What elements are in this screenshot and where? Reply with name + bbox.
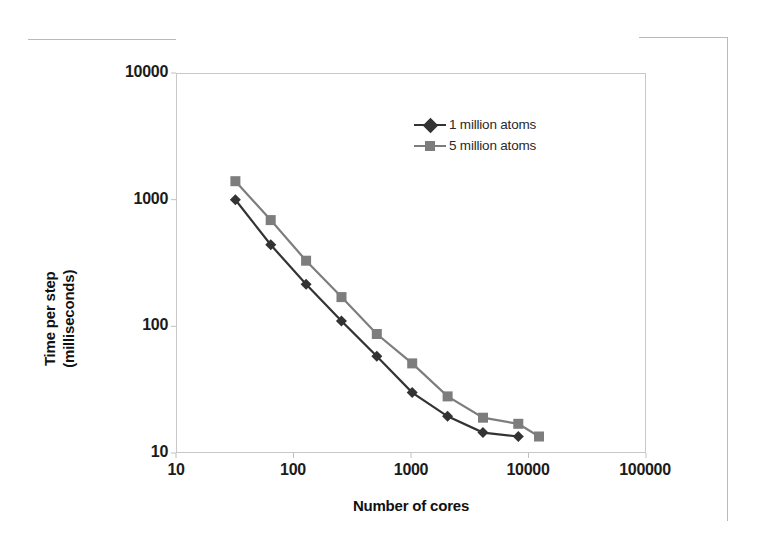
square-marker-icon <box>414 139 446 153</box>
y-tick-label-100: 100 <box>78 316 168 334</box>
y-axis-title: Time per step (milliseconds) <box>41 214 79 424</box>
x-tick-label-10: 10 <box>121 461 231 479</box>
legend-item-5-million: 5 million atoms <box>414 135 604 156</box>
x-tick-label-1000: 1000 <box>356 461 466 479</box>
legend-label-5-million: 5 million atoms <box>449 138 536 153</box>
y-axis-title-line-1: Time per step <box>41 214 60 424</box>
x-tick-label-100000: 100000 <box>590 461 700 479</box>
figure-page: 10000 1000 100 10 10 100 1000 10000 1000… <box>0 0 772 544</box>
y-tick-label-10000: 10000 <box>78 63 168 81</box>
diamond-marker-icon <box>414 118 446 132</box>
x-axis-title: Number of cores <box>286 497 536 514</box>
chart-legend: 1 million atoms 5 million atoms <box>414 114 604 156</box>
y-axis-title-line-2: (milliseconds) <box>60 214 79 424</box>
x-tick-label-10000: 10000 <box>473 461 583 479</box>
scaling-line-chart: 10000 1000 100 10 10 100 1000 10000 1000… <box>0 0 772 544</box>
legend-item-1-million: 1 million atoms <box>414 114 604 135</box>
legend-label-1-million: 1 million atoms <box>449 117 536 132</box>
x-tick-label-100: 100 <box>238 461 348 479</box>
y-tick-label-1000: 1000 <box>78 190 168 208</box>
y-tick-label-10: 10 <box>78 443 168 461</box>
